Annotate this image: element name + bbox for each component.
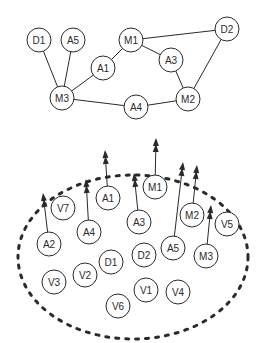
node-label: D2 — [221, 24, 234, 35]
bottom-node-v2: V2 — [73, 263, 97, 287]
top-node-a4: A4 — [124, 95, 148, 119]
node-label: M2 — [181, 94, 195, 105]
node-label: D1 — [33, 35, 46, 46]
node-label: M3 — [199, 251, 213, 262]
bottom-node-v7: V7 — [51, 196, 75, 220]
node-label: V7 — [57, 203, 70, 214]
arrow-a3 — [132, 173, 139, 210]
node-label: V6 — [112, 301, 125, 312]
bottom-node-a4: A4 — [77, 220, 101, 244]
bottom-group-arrows — [41, 138, 213, 244]
bottom-node-d2: D2 — [132, 243, 156, 267]
bottom-node-a2: A2 — [37, 232, 61, 256]
arrow-a2 — [41, 193, 48, 232]
arrow-m3 — [207, 205, 214, 244]
node-label: A4 — [83, 227, 96, 238]
bottom-node-a3: A3 — [127, 210, 151, 234]
bottom-node-v3: V3 — [42, 270, 66, 294]
node-label: M1 — [148, 182, 162, 193]
node-label: M1 — [124, 35, 138, 46]
node-label: M2 — [185, 210, 199, 221]
node-label: V4 — [172, 287, 185, 298]
top-node-a1: A1 — [91, 56, 115, 80]
top-node-d2: D2 — [215, 17, 239, 41]
bottom-node-m2: M2 — [180, 203, 204, 227]
bottom-node-a5: A5 — [161, 236, 185, 260]
node-label: A1 — [102, 193, 115, 204]
arrow-m1 — [153, 138, 159, 175]
network-diagram: D1A5M1D2A1A3M3A4M2 V7A1M1A3M2V5A2A4D1D2A… — [0, 0, 266, 343]
bottom-node-a1: A1 — [96, 186, 120, 210]
bottom-node-v5: V5 — [215, 212, 239, 236]
arrow-a1 — [103, 150, 109, 186]
top-node-a5: A5 — [61, 28, 85, 52]
node-label: D2 — [138, 250, 151, 261]
top-node-d1: D1 — [27, 28, 51, 52]
bottom-group-nodes: V7A1M1A3M2V5A2A4D1D2A5M3V3V2V1V4V6 — [37, 175, 239, 318]
bottom-node-d1: D1 — [99, 250, 123, 274]
node-label: M3 — [55, 93, 69, 104]
top-node-m3: M3 — [50, 86, 74, 110]
node-label: A1 — [97, 63, 110, 74]
node-label: A3 — [133, 217, 146, 228]
node-label: A3 — [165, 55, 178, 66]
node-label: A5 — [167, 243, 180, 254]
bottom-node-m3: M3 — [194, 244, 218, 268]
node-label: V5 — [221, 219, 234, 230]
node-label: V3 — [48, 277, 61, 288]
top-node-m1: M1 — [119, 28, 143, 52]
bottom-node-m1: M1 — [143, 175, 167, 199]
bottom-node-v4: V4 — [166, 280, 190, 304]
node-label: A2 — [43, 239, 56, 250]
bottom-node-v6: V6 — [106, 294, 130, 318]
node-label: V1 — [140, 285, 153, 296]
node-label: A5 — [67, 35, 80, 46]
edge-m1-d2 — [131, 29, 227, 40]
top-node-a3: A3 — [159, 48, 183, 72]
bottom-node-v1: V1 — [134, 278, 158, 302]
node-label: V2 — [79, 270, 92, 281]
arrow-a4 — [83, 179, 89, 220]
arrow-m2 — [193, 165, 200, 203]
arrow-a5 — [174, 162, 185, 236]
top-graph-nodes: D1A5M1D2A1A3M3A4M2 — [27, 17, 239, 119]
node-label: A4 — [130, 102, 143, 113]
node-label: D1 — [105, 257, 118, 268]
top-node-m2: M2 — [176, 87, 200, 111]
